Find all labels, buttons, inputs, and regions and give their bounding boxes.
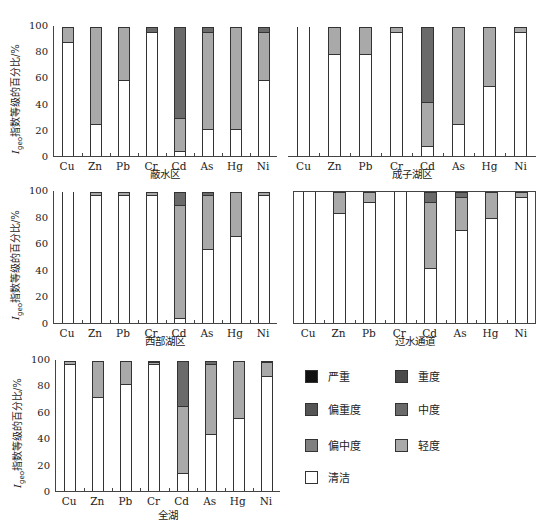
x-tick — [197, 488, 198, 491]
y-tick-label: 60 — [28, 408, 50, 418]
bar-pb — [359, 27, 372, 157]
segment-轻度 — [262, 362, 272, 376]
bar-cd — [177, 361, 189, 492]
x-label-hg: Hg — [475, 327, 505, 339]
y-axis-label: Igeo指数等级的百分比/% — [9, 378, 26, 488]
x-tick — [319, 153, 320, 156]
x-label-hg: Hg — [223, 495, 253, 507]
segment-轻度 — [515, 27, 526, 32]
bar-cu — [62, 27, 74, 157]
segment-清洁 — [203, 129, 213, 156]
bar-pb — [118, 192, 130, 324]
segment-中度 — [203, 192, 213, 196]
segment-轻度 — [329, 27, 340, 54]
legend-item-pianzhongdu: 偏重度 — [305, 401, 361, 417]
panel-title: 西部湖区 — [105, 333, 225, 348]
segment-清洁 — [147, 195, 157, 323]
legend-item-qingjie: 清洁 — [305, 469, 350, 485]
bar-as — [202, 192, 214, 324]
bar-cu — [64, 361, 76, 492]
x-tick — [222, 153, 223, 156]
x-tick — [416, 320, 417, 323]
segment-清洁 — [453, 124, 464, 156]
segment-轻度 — [231, 192, 241, 237]
bar-cd — [174, 27, 186, 157]
swatch-yanzhong-icon — [305, 370, 318, 383]
bar-cr — [394, 192, 407, 324]
swatch-qingjie-icon — [305, 471, 318, 484]
x-tick — [82, 320, 83, 323]
segment-清洁 — [304, 192, 315, 324]
bar-zn — [92, 361, 104, 492]
segment-清洁 — [360, 54, 371, 156]
y-axis-label: Igeo指数等级的百分比/% — [7, 44, 24, 154]
bar-pb — [120, 361, 132, 492]
x-label-zn: Zn — [320, 160, 350, 172]
segment-轻度 — [484, 27, 495, 87]
segment-清洁 — [395, 192, 406, 324]
segment-清洁 — [259, 80, 269, 156]
x-tick — [110, 320, 111, 323]
y-axis-label: Igeo指数等级的百分比/% — [7, 210, 24, 320]
x-tick — [169, 488, 170, 491]
panel-title: 过水通道 — [355, 333, 475, 348]
segment-清洁 — [206, 434, 216, 491]
x-label-ni: Ni — [506, 327, 536, 339]
x-tick — [138, 320, 139, 323]
legend-label: 清洁 — [328, 469, 350, 485]
segment-轻度 — [63, 27, 73, 43]
segment-轻度 — [456, 197, 467, 230]
segment-清洁 — [63, 42, 73, 156]
segment-清洁 — [231, 236, 241, 323]
segment-清洁 — [63, 192, 73, 324]
x-tick — [507, 320, 508, 323]
segment-轻度 — [175, 205, 185, 318]
segment-轻度 — [486, 192, 497, 218]
y-label-i: I — [12, 484, 23, 488]
legend-label: 轻度 — [418, 437, 440, 453]
bar-hg — [485, 192, 498, 324]
segment-轻度 — [149, 362, 159, 365]
x-label-ni: Ni — [248, 327, 278, 339]
x-tick — [505, 153, 506, 156]
y-tick-label: 60 — [26, 73, 48, 83]
x-label-cu: Cu — [52, 160, 82, 172]
x-tick — [324, 320, 325, 323]
y-tick-label: 20 — [26, 292, 48, 302]
x-label-cu: Cu — [54, 495, 84, 507]
x-label-ni: Ni — [251, 495, 281, 507]
segment-中度 — [178, 361, 188, 407]
bar-as — [202, 27, 214, 157]
segment-中度 — [262, 361, 272, 362]
segment-清洁 — [422, 146, 433, 156]
bar-cr — [146, 27, 158, 157]
x-label-cr: Cr — [138, 495, 168, 507]
segment-轻度 — [334, 192, 345, 213]
y-tick-label: 80 — [28, 381, 50, 391]
y-tick-label: 80 — [26, 47, 48, 57]
segment-轻度 — [206, 364, 216, 433]
y-tick-label: 40 — [26, 266, 48, 276]
segment-清洁 — [516, 197, 527, 323]
segment-中度 — [456, 192, 467, 197]
segment-轻度 — [65, 361, 75, 365]
legend-label: 严重 — [328, 368, 350, 384]
segment-清洁 — [484, 86, 495, 156]
segment-轻度 — [259, 192, 269, 196]
segment-清洁 — [364, 202, 375, 323]
segment-中度 — [147, 27, 157, 32]
segment-清洁 — [231, 129, 241, 156]
legend-item-zhongdu2: 中度 — [395, 401, 440, 417]
segment-清洁 — [147, 32, 157, 156]
y-tick-label: 20 — [26, 126, 48, 136]
bar-cu — [297, 27, 310, 157]
bar-ni — [515, 192, 528, 324]
segment-清洁 — [259, 195, 269, 323]
y-label-sub: geo — [16, 303, 24, 316]
x-tick — [250, 320, 251, 323]
segment-轻度 — [93, 361, 103, 398]
plot-area-5 — [55, 360, 280, 492]
segment-中度 — [422, 27, 433, 102]
x-tick — [253, 488, 254, 491]
x-label-cd: Cd — [167, 495, 197, 507]
